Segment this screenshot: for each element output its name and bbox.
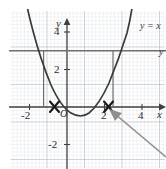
y-axis-name: y [56,18,61,29]
graph-figure: -2 2 4 4 2 -2 x y O y = x y [0,0,166,169]
y-tick-label-2: 2 [54,64,60,75]
origin-label: O [60,109,67,119]
y-tick-label--2: -2 [48,139,57,150]
x-tick-label-2: 2 [101,110,107,121]
annotations-layer [9,9,166,169]
x-axis-name: x [157,109,162,120]
x-tick-label-4: 4 [138,110,144,121]
line-equation-label: y [159,47,163,57]
intersection-left-marker [50,102,59,113]
x-tick-label--2: -2 [21,110,30,121]
plot-area: -2 2 4 4 2 -2 x y O y = x y [9,9,166,169]
curve-equation-label: y = x [140,21,161,31]
